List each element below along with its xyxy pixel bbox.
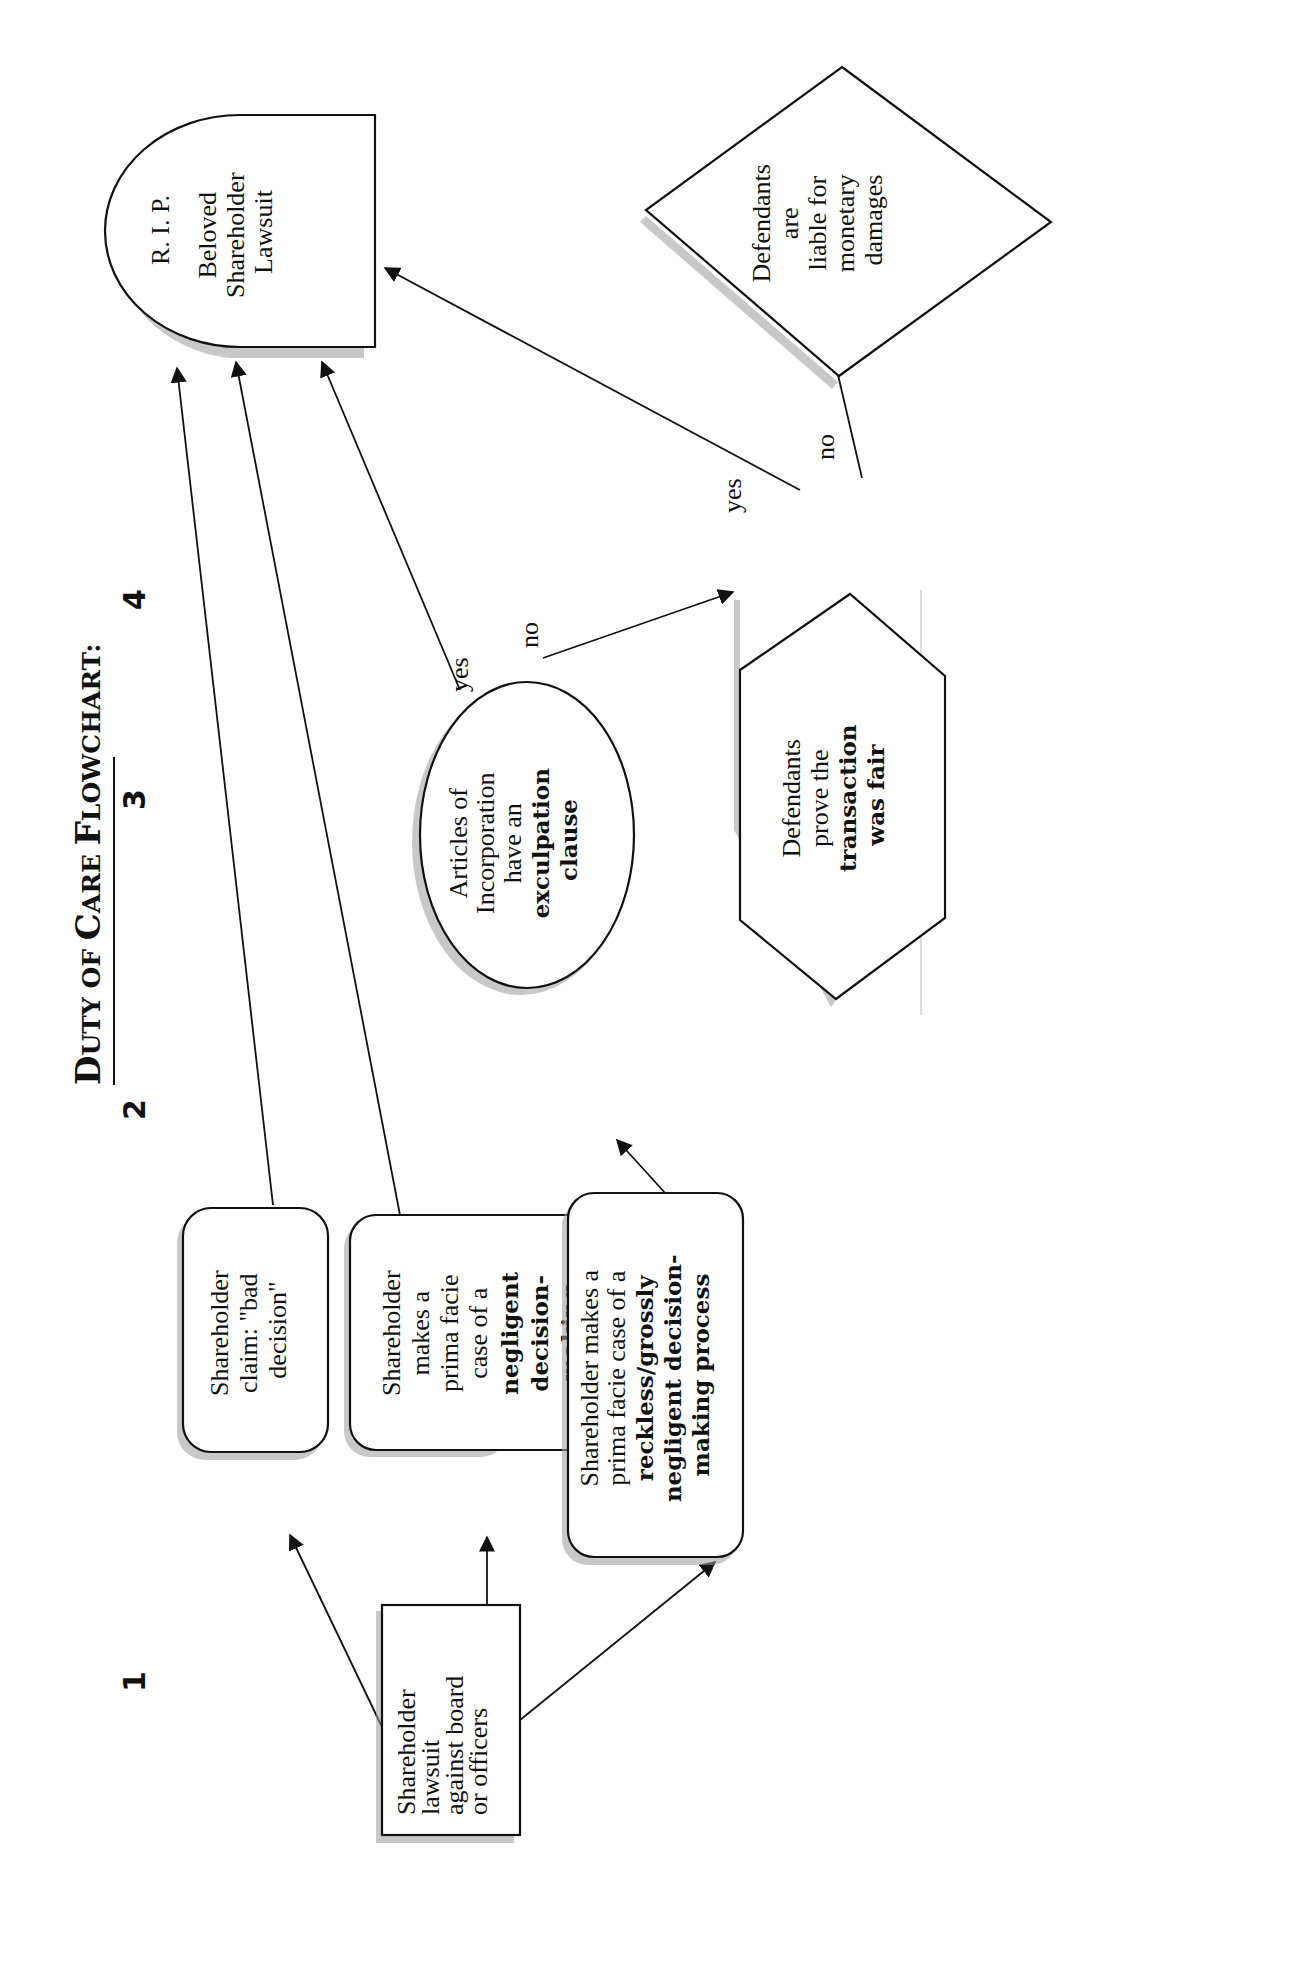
flowchart-canvas: DUTY OF CARE FLOWCHART: 1 2 3 4 yes no y… <box>0 0 1292 1969</box>
svg-text:Shareholder makes a pr: Shareholder makes a prima facie case of … <box>575 1248 714 1502</box>
svg-text:DUTY OF CARE FLOWCHART:: DUTY OF CARE FLOWCHART: <box>68 644 108 1085</box>
column-number-4: 4 <box>117 589 152 610</box>
node-fairness-hexagon: Defendants prove the transaction was fai… <box>734 594 945 1007</box>
rip-heading: R. I. P. <box>146 195 175 265</box>
liable-text: Defendants are liable for monetary damag… <box>747 158 888 283</box>
page-title: DUTY OF CARE FLOWCHART: <box>68 644 114 1085</box>
edge-label-exculpation-no: no <box>515 622 544 648</box>
node-exculpation-ellipse: Articles of Incorporation have an exculp… <box>412 682 634 995</box>
edge-exculpation-no-to-fairness <box>543 592 733 658</box>
edge-label-fairness-no: no <box>811 434 840 460</box>
svg-text:Defendants are: Defendants are liable for monetary damag… <box>747 158 888 283</box>
svg-text:Shareholder claim: "b: Shareholder claim: "bad decision" <box>205 1264 292 1396</box>
bad-decision-text: Shareholder claim: "bad decision" <box>205 1264 292 1396</box>
node-bad-decision-box: Shareholder claim: "bad decision" <box>177 1208 328 1460</box>
edges <box>177 268 862 1775</box>
edge-bad-decision-to-rip <box>177 368 273 1205</box>
node-liable-diamond: Defendants are liable for monetary damag… <box>640 67 1051 389</box>
edge-start-to-reckless <box>520 1562 715 1720</box>
edge-exculpation-yes-to-rip <box>322 362 460 690</box>
column-number-1: 1 <box>117 1671 152 1692</box>
node-rip-tombstone: R. I. P. Beloved Shareholder Lawsuit <box>0 0 375 358</box>
column-number-3: 3 <box>117 789 152 810</box>
reckless-text: Shareholder makes a prima facie case of … <box>575 1248 714 1502</box>
column-number-2: 2 <box>117 1099 152 1120</box>
node-start-box: Shareholder lawsuit against board or off… <box>376 1605 520 1843</box>
node-reckless-box: Shareholder makes a prima facie case of … <box>562 1193 743 1565</box>
edge-label-exculpation-yes: yes <box>445 657 474 692</box>
edge-label-fairness-yes: yes <box>718 478 747 513</box>
